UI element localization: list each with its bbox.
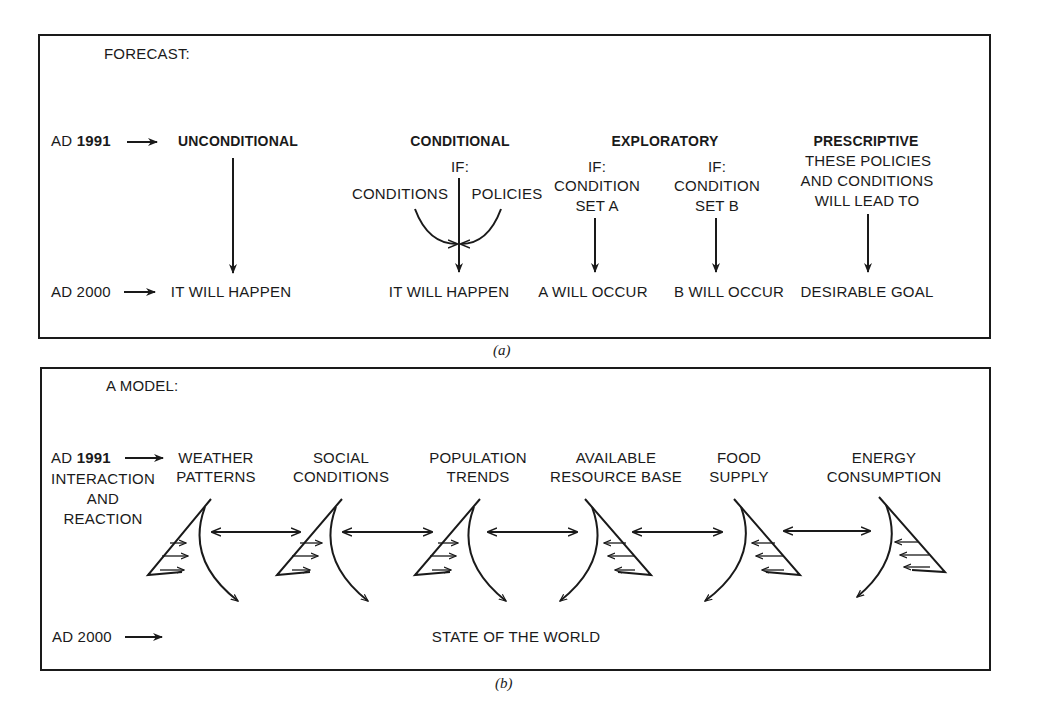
state-of-world-outcome: STATE OF THE WORLD xyxy=(432,627,601,647)
side-label-line3: REACTION xyxy=(63,509,142,529)
year-value: 1991 xyxy=(77,132,111,149)
year-end-label-b: AD 2000 xyxy=(52,627,112,647)
exploratory-a-if: IF: xyxy=(588,157,606,177)
factor-food-line1: FOOD xyxy=(717,448,761,468)
exploratory-a-line1: CONDITION xyxy=(554,176,640,196)
prescriptive-line3: WILL LEAD TO xyxy=(815,191,920,211)
prescriptive-line1: THESE POLICIES xyxy=(805,151,931,171)
year-start-label-b: AD 1991 xyxy=(51,448,111,468)
factor-population-line1: POPULATION xyxy=(429,448,527,468)
factor-weather-line2: PATTERNS xyxy=(176,467,255,487)
exploratory-b-line1: CONDITION xyxy=(674,176,760,196)
conditional-policies: POLICIES xyxy=(472,184,543,204)
factor-energy-line1: ENERGY xyxy=(852,448,917,468)
forecast-heading: FORECAST: xyxy=(104,44,190,64)
factor-social-line2: CONDITIONS xyxy=(293,467,389,487)
conditional-conditions: CONDITIONS xyxy=(352,184,448,204)
model-heading: A MODEL: xyxy=(106,376,178,396)
unconditional-outcome: IT WILL HAPPEN xyxy=(171,282,291,302)
side-label-line2: AND xyxy=(87,489,119,509)
panel-a-caption: (a) xyxy=(493,342,511,359)
factor-social-line1: SOCIAL xyxy=(313,448,369,468)
year-end-label-a: AD 2000 xyxy=(51,282,111,302)
year-start-label-a: AD 1991 xyxy=(51,131,111,151)
prescriptive-title: PRESCRIPTIVE xyxy=(813,131,918,151)
unconditional-title: UNCONDITIONAL xyxy=(178,131,298,151)
side-label-line1: INTERACTION xyxy=(51,469,155,489)
year-value: 1991 xyxy=(77,449,111,466)
prescriptive-outcome: DESIRABLE GOAL xyxy=(801,282,934,302)
panel-b-caption: (b) xyxy=(495,675,513,692)
prescriptive-line2: AND CONDITIONS xyxy=(801,171,934,191)
model-panel xyxy=(40,367,991,671)
year-prefix: AD xyxy=(51,449,72,466)
factor-energy-line2: CONSUMPTION xyxy=(827,467,942,487)
conditional-if: IF: xyxy=(451,157,469,177)
factor-resource-line1: AVAILABLE xyxy=(576,448,656,468)
factor-resource-line2: RESOURCE BASE xyxy=(550,467,682,487)
exploratory-a-outcome: A WILL OCCUR xyxy=(538,282,647,302)
factor-weather-line1: WEATHER xyxy=(178,448,253,468)
conditional-title: CONDITIONAL xyxy=(410,131,509,151)
factor-food-line2: SUPPLY xyxy=(709,467,768,487)
exploratory-title: EXPLORATORY xyxy=(612,131,719,151)
year-prefix: AD xyxy=(51,132,72,149)
exploratory-b-line2: SET B xyxy=(695,196,739,216)
factor-population-line2: TRENDS xyxy=(447,467,510,487)
exploratory-a-line2: SET A xyxy=(575,196,618,216)
conditional-outcome: IT WILL HAPPEN xyxy=(389,282,509,302)
exploratory-b-outcome: B WILL OCCUR xyxy=(674,282,784,302)
exploratory-b-if: IF: xyxy=(708,157,726,177)
